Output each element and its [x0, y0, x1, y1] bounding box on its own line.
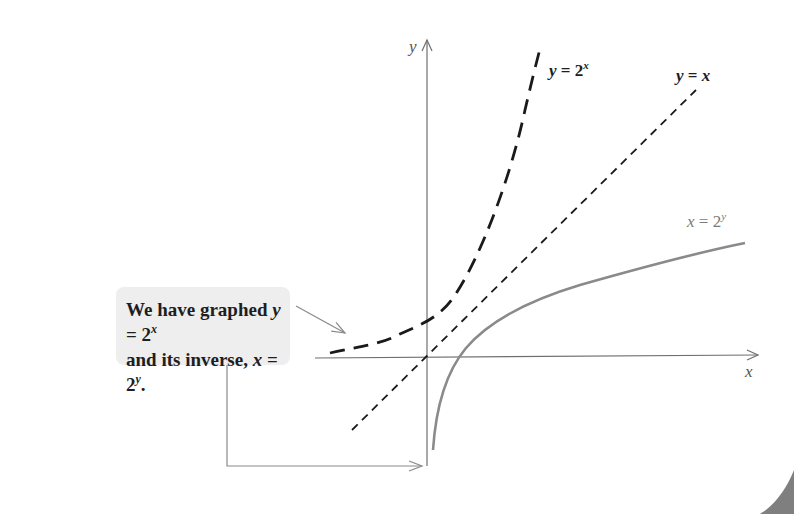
x-axis [315, 355, 758, 358]
label-var: x [687, 212, 695, 231]
logarithmic-curve-label: x = 2y [687, 212, 726, 232]
label-var1: y [676, 66, 684, 85]
x-axis-label: x [745, 362, 753, 382]
label-var2: x [702, 66, 711, 85]
label-var: y [549, 61, 557, 80]
label-eq: = [684, 66, 702, 85]
exponential-curve-label: y = 2x [549, 61, 589, 81]
callout-line-1: We have graphed y = 2x [126, 297, 290, 347]
callout-var: y [272, 299, 280, 320]
callout-text: and its inverse, [126, 349, 253, 370]
callout-box: We have graphed y = 2x and its inverse, … [116, 287, 290, 365]
label-exp: y [721, 210, 726, 222]
identity-line [352, 90, 696, 430]
callout-text: We have graphed [126, 299, 272, 320]
exponential-curve [330, 45, 541, 353]
identity-line-label: y = x [676, 66, 710, 86]
callout-var: x [253, 349, 263, 370]
y-axis-label: y [409, 37, 417, 57]
label-eq: = 2 [557, 61, 584, 80]
graph-canvas [0, 0, 794, 514]
callout-exp: x [151, 322, 157, 336]
callout-arrow-to-curve [296, 306, 345, 333]
callout-period: . [141, 374, 146, 395]
callout-line-2: and its inverse, x = 2y. [126, 347, 290, 397]
label-exp: x [583, 59, 589, 71]
callout-eq: = 2 [126, 324, 151, 345]
label-eq: = 2 [695, 212, 722, 231]
page-corner-decoration [760, 470, 794, 514]
logarithmic-curve [433, 243, 745, 450]
